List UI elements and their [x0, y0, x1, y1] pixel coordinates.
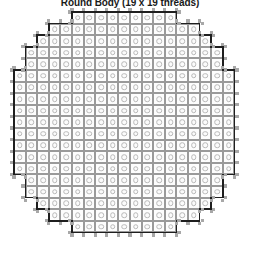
- thread-cell: [107, 163, 119, 175]
- thread-cell: [153, 163, 165, 175]
- thread-cell: [14, 151, 26, 163]
- bead-circle-icon: [156, 15, 162, 21]
- thread-cell: [26, 70, 38, 82]
- thread-cell: [95, 93, 107, 105]
- bead-circle-icon: [121, 15, 127, 21]
- thread-cell: [130, 186, 142, 198]
- thread-cell: [153, 151, 165, 163]
- thread-cell: [95, 209, 107, 221]
- bead-circle-icon: [17, 119, 23, 125]
- bead-circle-icon: [110, 201, 116, 207]
- thread-cell: [176, 140, 188, 152]
- thread-cell: [37, 47, 49, 59]
- thread-cell: [84, 128, 96, 140]
- thread-cell: [153, 35, 165, 47]
- bead-circle-icon: [75, 85, 81, 91]
- bead-circle-icon: [52, 38, 58, 44]
- thread-cell: [188, 58, 200, 70]
- bead-circle-icon: [145, 201, 151, 207]
- bead-circle-icon: [63, 154, 69, 160]
- thread-cell: [142, 140, 154, 152]
- bead-circle-icon: [63, 177, 69, 183]
- bead-circle-icon: [121, 166, 127, 172]
- bead-circle-icon: [145, 27, 151, 33]
- bead-circle-icon: [203, 61, 209, 67]
- bead-circle-icon: [29, 61, 35, 67]
- thread-cell: [130, 24, 142, 36]
- thread-cell: [130, 198, 142, 210]
- thread-cell: [188, 163, 200, 175]
- thread-cell: [60, 82, 72, 94]
- thread-cell: [72, 140, 84, 152]
- bead-circle-icon: [87, 61, 93, 67]
- bead-circle-icon: [75, 50, 81, 56]
- bead-circle-icon: [63, 50, 69, 56]
- bead-circle-icon: [179, 166, 185, 172]
- thread-cell: [130, 116, 142, 128]
- thread-cell: [211, 70, 223, 82]
- thread-cell: [26, 163, 38, 175]
- bead-circle-icon: [87, 85, 93, 91]
- thread-cell: [165, 163, 177, 175]
- thread-cell: [107, 24, 119, 36]
- bead-circle-icon: [156, 108, 162, 114]
- thread-cell: [165, 70, 177, 82]
- thread-cell: [72, 82, 84, 94]
- bead-circle-icon: [52, 177, 58, 183]
- bead-circle-icon: [145, 50, 151, 56]
- thread-tab: [224, 45, 227, 48]
- thread-tab: [45, 22, 48, 25]
- bead-circle-icon: [98, 201, 104, 207]
- bead-circle-icon: [214, 166, 220, 172]
- bead-circle-icon: [63, 108, 69, 114]
- thread-cell: [200, 58, 212, 70]
- bead-circle-icon: [110, 143, 116, 149]
- bead-circle-icon: [168, 73, 174, 79]
- thread-cell: [95, 128, 107, 140]
- bead-circle-icon: [203, 108, 209, 114]
- thread-tab: [68, 10, 71, 13]
- thread-cell: [107, 140, 119, 152]
- thread-cell: [60, 35, 72, 47]
- thread-cell: [49, 35, 61, 47]
- bead-circle-icon: [121, 38, 127, 44]
- bead-circle-icon: [40, 61, 46, 67]
- thread-tab: [68, 231, 71, 234]
- thread-cell: [176, 174, 188, 186]
- bead-circle-icon: [179, 27, 185, 33]
- thread-cell: [60, 198, 72, 210]
- thread-cell: [142, 47, 154, 59]
- thread-cell: [188, 35, 200, 47]
- bead-circle-icon: [98, 108, 104, 114]
- bead-circle-icon: [63, 131, 69, 137]
- bead-circle-icon: [203, 119, 209, 125]
- bead-circle-icon: [87, 224, 93, 230]
- thread-cell: [200, 116, 212, 128]
- bead-circle-icon: [203, 143, 209, 149]
- thread-cell: [60, 174, 72, 186]
- bead-circle-icon: [168, 15, 174, 21]
- thread-cell: [95, 70, 107, 82]
- thread-cell: [176, 186, 188, 198]
- bead-circle-icon: [156, 96, 162, 102]
- thread-cell: [84, 82, 96, 94]
- outline-segment: [13, 162, 15, 175]
- thread-cell: [176, 24, 188, 36]
- bead-circle-icon: [226, 96, 232, 102]
- bead-circle-icon: [75, 15, 81, 21]
- thread-cell: [130, 47, 142, 59]
- thread-cell: [130, 151, 142, 163]
- bead-circle-icon: [75, 143, 81, 149]
- thread-cell: [165, 82, 177, 94]
- thread-cell: [72, 47, 84, 59]
- thread-tab: [221, 66, 224, 69]
- thread-cell: [107, 128, 119, 140]
- bead-circle-icon: [179, 50, 185, 56]
- bead-circle-icon: [40, 38, 46, 44]
- thread-tab: [201, 219, 204, 222]
- bead-circle-icon: [87, 154, 93, 160]
- thread-cell: [95, 151, 107, 163]
- bead-circle-icon: [40, 166, 46, 172]
- thread-tab: [224, 173, 227, 176]
- thread-cell: [49, 151, 61, 163]
